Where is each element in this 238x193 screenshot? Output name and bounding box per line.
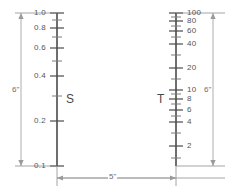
scale-s-tick-label: 0.1 — [22, 161, 46, 170]
scale-t-tick-label: 2 — [187, 141, 192, 150]
scale-s-tick-label: 0.8 — [22, 23, 46, 32]
scale-t-tick-label: 10 — [187, 85, 197, 94]
scale-t-tick-label: 8 — [187, 94, 192, 103]
scale-s-name-label: S — [66, 92, 75, 106]
scale-t-tick-label: 20 — [187, 63, 197, 72]
arrowhead-down-right — [210, 160, 215, 166]
scale-t-tick-label: 40 — [187, 39, 197, 48]
nomogram-diagram: 1.0 0.8 0.6 0.4 0.2 0.1 100 80 60 40 20 … — [0, 0, 238, 193]
scale-t-name-label: T — [157, 92, 165, 106]
arrowhead-right-bottom — [170, 175, 176, 180]
scale-s-tick-label: 0.4 — [22, 71, 46, 80]
dimension-label-separation: 5" — [108, 172, 117, 181]
scale-t-tick-label: 80 — [187, 16, 197, 25]
arrowhead-up-right — [210, 13, 215, 19]
scale-t-tick-label: 6 — [187, 105, 192, 114]
scale-t-tick-label: 4 — [187, 117, 192, 126]
dimension-label-left-height: 6" — [11, 85, 20, 94]
scale-s-tick-label: 0.2 — [22, 116, 46, 125]
dimension-label-right-height: 6" — [203, 85, 212, 94]
scale-s-tick-label: 1.0 — [22, 8, 46, 17]
arrowhead-left-bottom — [57, 175, 63, 180]
scale-s-tick-label: 0.6 — [22, 43, 46, 52]
scale-t-tick-label: 60 — [187, 26, 197, 35]
